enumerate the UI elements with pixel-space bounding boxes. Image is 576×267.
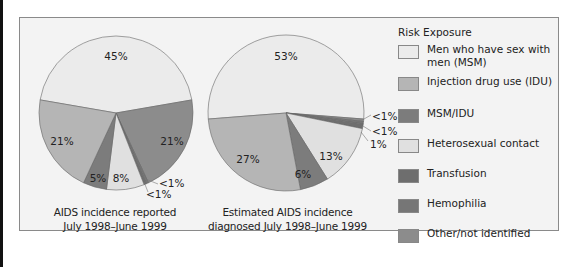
legend-title: Risk Exposure: [398, 26, 558, 38]
legend-label: Injection drug use (IDU): [427, 75, 557, 88]
legend-label: Men who have sex with men (MSM): [427, 43, 557, 69]
slice-label: 6%: [295, 168, 312, 180]
slice-label: 5%: [90, 172, 107, 184]
legend-label: Other/not identified: [427, 227, 557, 240]
legend-swatch: [398, 77, 419, 91]
slice-label: 21%: [160, 135, 183, 147]
slice-label: 13%: [319, 150, 342, 162]
legend-swatch: [398, 229, 419, 243]
pie-chart-estimated: 53%<1%<1%1%13%6%27%: [208, 35, 397, 191]
legend-item: Hemophilia: [398, 197, 558, 227]
legend-label: Hemophilia: [427, 197, 557, 210]
legend-item: Heterosexual contact: [398, 137, 558, 167]
pie2-caption-line1: Estimated AIDS incidence: [200, 205, 375, 219]
legend-item: MSM/IDU: [398, 107, 558, 137]
slice-label: 8%: [113, 172, 130, 184]
pie-slice: [208, 35, 364, 119]
pie-slice: [208, 113, 300, 191]
slice-label: <1%: [146, 188, 171, 200]
pie2-caption: Estimated AIDS incidence diagnosed July …: [200, 205, 375, 233]
legend-swatch: [398, 199, 419, 213]
pie1-caption: AIDS incidence reported July 1998–June 1…: [40, 205, 190, 233]
legend-label: MSM/IDU: [427, 107, 557, 120]
slice-label: 1%: [370, 138, 387, 150]
slice-label: <1%: [372, 110, 397, 122]
legend-item: Other/not identified: [398, 227, 558, 257]
pie2-caption-line2: diagnosed July 1998–June 1999: [200, 219, 375, 233]
slice-label: 21%: [50, 135, 73, 147]
legend-swatch: [398, 109, 419, 123]
pie-chart-reported: 45%21%<1%<1%8%5%21%: [39, 36, 193, 200]
legend-swatch: [398, 45, 419, 59]
legend-item: Transfusion: [398, 167, 558, 197]
pie1-caption-line2: July 1998–June 1999: [40, 219, 190, 233]
legend-label: Heterosexual contact: [427, 137, 557, 150]
pie-slice: [40, 36, 192, 113]
slice-label: <1%: [372, 125, 397, 137]
legend-item: Men who have sex with men (MSM): [398, 43, 558, 75]
pie1-caption-line1: AIDS incidence reported: [40, 205, 190, 219]
legend-item: Injection drug use (IDU): [398, 75, 558, 107]
slice-label: 45%: [104, 50, 127, 62]
legend-swatch: [398, 139, 419, 153]
slice-label: 53%: [274, 50, 297, 62]
legend-label: Transfusion: [427, 167, 557, 180]
legend-swatch: [398, 169, 419, 183]
legend: Risk Exposure Men who have sex with men …: [398, 26, 558, 257]
slice-label: 27%: [236, 153, 259, 165]
